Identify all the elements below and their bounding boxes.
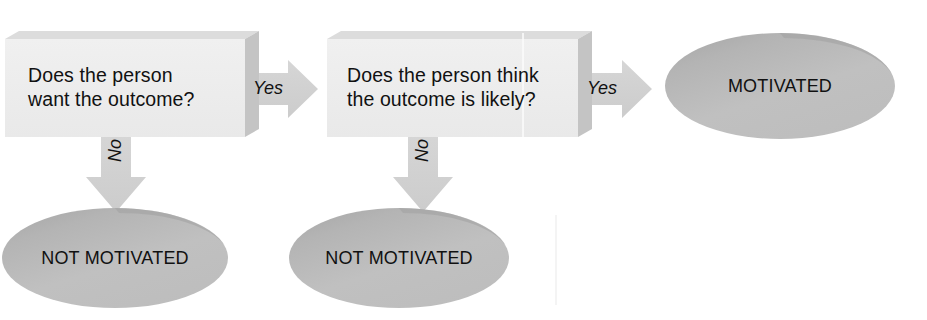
edge-no-q2-to-not-motivated xyxy=(393,132,453,212)
flowchart-shapes-layer xyxy=(0,0,927,320)
node-not-motivated-2 xyxy=(289,208,556,308)
node-question-2 xyxy=(327,31,592,137)
flowchart-diagram: Does the person want the outcome? Does t… xyxy=(0,0,927,320)
node-motivated xyxy=(665,33,895,139)
node-question-1 xyxy=(5,31,259,137)
edge-no-q1-to-not-motivated xyxy=(86,132,146,212)
node-not-motivated-1 xyxy=(2,208,228,308)
